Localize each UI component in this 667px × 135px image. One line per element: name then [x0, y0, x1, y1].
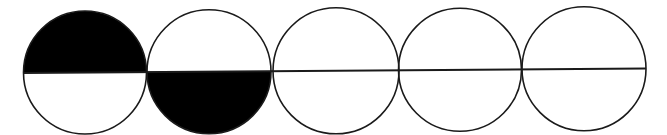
filled-half-top: [24, 11, 147, 72]
circle-diagram: [0, 0, 667, 135]
circle-row-diagram: [0, 0, 667, 135]
filled-half-bottom: [147, 72, 271, 134]
